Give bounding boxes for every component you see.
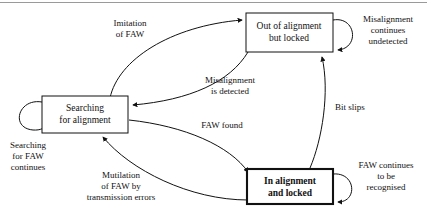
self-loop-label-in-alignment-line-1: FAW continues	[358, 160, 414, 170]
edge-label-faw-found-line-1: FAW found	[201, 120, 243, 130]
self-loop-label-searching-line-3: continues	[11, 162, 46, 172]
self-loop-out-of-alignment	[333, 20, 353, 50]
self-loop-label-out-of-alignment: Misalignment continues undetected	[363, 14, 413, 46]
edge-label-bit-slips-line-1: Bit slips	[335, 102, 365, 112]
edge-label-misalignment-is-detected: Misalignment is detected	[205, 75, 255, 96]
edge-label-imitation-of-faw-line-2: of FAW	[116, 29, 145, 39]
state-label-in-alignment-line-1: In alignment	[264, 176, 317, 186]
edge-label-mutilation-of-faw-line-2: of FAW by	[101, 181, 141, 191]
edge-bit-slips	[310, 57, 325, 168]
state-node-in-alignment[interactable]: In alignment and locked	[247, 169, 333, 204]
state-box-in-alignment[interactable]	[247, 169, 333, 204]
edge-label-mutilation-of-faw-line-3: transmission errors	[87, 192, 156, 202]
state-node-out-of-alignment[interactable]: Out of alignment but locked	[246, 13, 333, 52]
state-label-in-alignment-line-2: and locked	[268, 188, 313, 198]
state-diagram-page: Searching for alignment Out of alignment…	[0, 0, 427, 219]
edge-label-imitation-of-faw: Imitation of FAW	[114, 18, 147, 39]
self-loop-label-in-alignment-line-3: recognised	[367, 182, 406, 192]
self-loop-label-in-alignment: FAW continues to be recognised	[358, 160, 414, 192]
state-node-searching[interactable]: Searching for alignment	[42, 96, 128, 133]
state-diagram-canvas: Searching for alignment Out of alignment…	[0, 0, 427, 219]
edge-label-mutilation-of-faw: Mutilation of FAW by transmission errors	[87, 170, 156, 202]
edge-label-mutilation-of-faw-line-1: Mutilation	[102, 170, 140, 180]
edge-label-misalignment-is-detected-line-1: Misalignment	[205, 75, 255, 85]
self-loop-label-out-of-alignment-line-1: Misalignment	[363, 14, 413, 24]
edge-label-misalignment-is-detected-line-2: is detected	[211, 86, 250, 96]
self-loop-in-alignment	[333, 174, 352, 202]
self-loop-label-out-of-alignment-line-2: continues	[371, 25, 406, 35]
state-label-searching-line-1: Searching	[66, 103, 104, 113]
state-label-out-of-alignment-line-1: Out of alignment	[257, 21, 322, 31]
edge-label-faw-found: FAW found	[201, 120, 243, 130]
self-loop-label-out-of-alignment-line-3: undetected	[369, 36, 408, 46]
self-loop-label-searching: Searching for FAW continues	[10, 140, 46, 172]
edge-label-bit-slips: Bit slips	[335, 102, 365, 112]
state-label-out-of-alignment-line-2: but locked	[269, 33, 309, 43]
state-label-searching-line-2: for alignment	[59, 115, 111, 125]
edge-label-imitation-of-faw-line-1: Imitation	[114, 18, 147, 28]
self-loop-label-in-alignment-line-2: to be	[377, 171, 395, 181]
self-loop-label-searching-line-2: for FAW	[12, 151, 44, 161]
self-loop-label-searching-line-1: Searching	[10, 140, 46, 150]
